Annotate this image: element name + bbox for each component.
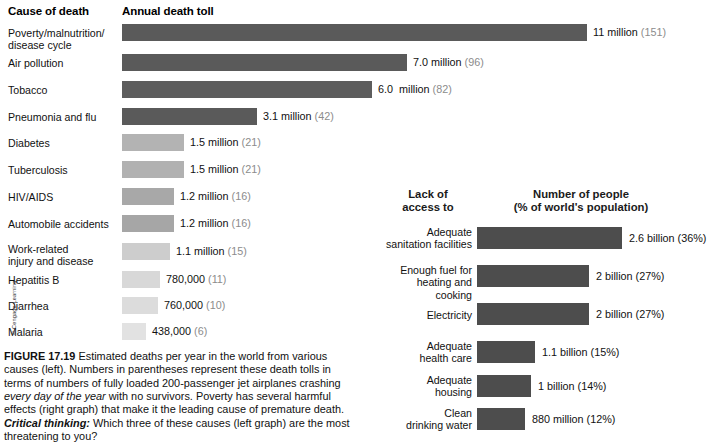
right-bar-chart: Adequatesanitation facilities2.6 billion… [380,0,700,444]
cause-bar [122,188,174,205]
cause-value-number: 780,000 [166,273,208,285]
cause-bar [122,243,170,260]
access-value-label: 2 billion (27%) [596,308,664,320]
access-bar [477,408,525,430]
cause-value-label: 1.2 million (16) [180,217,251,229]
access-bar [477,227,622,249]
cause-value-number: 1.2 million [180,190,232,202]
cause-bar [122,297,158,314]
cause-value-number: 1.1 million [176,245,228,257]
access-value-label: 880 million (12%) [532,413,615,425]
access-label: Adequatehealth care [380,340,472,365]
right-chart-row: Cleandrinking water880 million (12%) [380,0,711,36]
cause-bar [122,108,257,125]
cause-value-planes: (11) [208,273,226,285]
cause-value-label: 438,000 (6) [152,325,207,337]
access-label: Adequatehousing [380,374,472,399]
access-label: Cleandrinking water [380,407,472,432]
access-bar [477,341,535,363]
cause-value-label: 760,000 (10) [164,299,225,311]
cause-label: Tuberculosis [8,164,120,176]
cause-label: Diabetes [8,137,120,149]
cause-bar [122,54,407,71]
access-bar [477,375,531,397]
cause-label: Malaria [8,326,120,338]
access-label: Electricity [380,309,472,321]
access-bar [477,303,589,325]
cause-value-planes: (15) [228,245,247,257]
cause-value-planes: (10) [206,299,225,311]
cause-label: Diarrhea [8,300,120,312]
cause-bar [122,271,160,288]
access-value-label: 2 billion (27%) [596,270,664,282]
cause-value-label: 1.2 million (16) [180,190,251,202]
cause-label: Air pollution [8,57,120,69]
cause-value-label: 1.5 million (21) [190,136,261,148]
cause-value-number: 760,000 [164,299,206,311]
cause-label: Work-relatedinjury and disease [8,243,120,268]
cause-value-label: 1.5 million (21) [190,163,261,175]
cause-value-planes: (16) [232,217,251,229]
cause-label: Pneumonia and flu [8,111,120,123]
cause-label: HIV/AIDS [8,191,120,203]
cause-value-number: 3.1 million [263,110,315,122]
cause-value-label: 3.1 million (42) [263,110,334,122]
cause-value-planes: (16) [232,190,251,202]
cause-value-number: 438,000 [152,325,194,337]
figure-number: FIGURE 17.19 [4,350,75,362]
cause-bar [122,215,174,232]
cause-label: Automobile accidents [8,218,120,230]
cause-value-planes: (42) [315,110,334,122]
cause-bar [122,134,184,151]
cause-bar [122,323,146,340]
cause-value-planes: (21) [242,136,261,148]
cause-label: Poverty/malnutrition/disease cycle [8,27,120,52]
access-value-label: 1 billion (14%) [538,380,606,392]
cause-value-label: 780,000 (11) [166,273,226,285]
access-value-label: 1.1 billion (15%) [542,346,619,358]
copyright-credit: © Cengage Learning [11,255,17,335]
cause-label: Hepatitis B [8,274,120,286]
figure-caption: FIGURE 17.19 Estimated deaths per year i… [4,350,360,443]
cause-value-label: 1.1 million (15) [176,245,247,257]
cause-bar [122,161,184,178]
cause-value-number: 1.2 million [180,217,232,229]
caption-italic: every day of the year [4,390,106,402]
access-label: Enough fuel forheating and cooking [380,264,472,301]
cause-value-planes: (21) [242,163,261,175]
access-value-label: 2.6 billion (36%) [629,232,706,244]
access-bar [477,265,589,287]
cause-label: Tobacco [8,84,120,96]
critical-thinking-label: Critical thinking: [4,417,90,429]
cause-value-number: 1.5 million [190,163,242,175]
cause-value-number: 1.5 million [190,136,242,148]
cause-value-planes: (6) [194,325,207,337]
cause-bar [122,81,372,98]
access-label: Adequatesanitation facilities [380,226,472,251]
